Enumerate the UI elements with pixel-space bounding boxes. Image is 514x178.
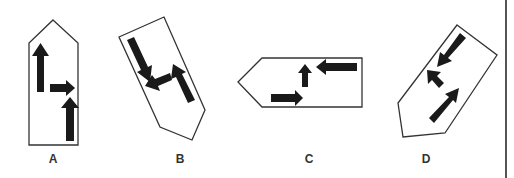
option-b-shape [119,17,205,140]
options-figure [0,0,514,178]
option-a-shape [29,20,79,145]
option-c-shape [238,58,362,107]
option-a-label: A [43,152,63,166]
option-d-label: D [416,152,436,166]
option-b-label: B [170,152,190,166]
option-c-label: C [299,152,319,166]
divider-line [505,0,507,178]
option-d-shape [398,25,497,137]
